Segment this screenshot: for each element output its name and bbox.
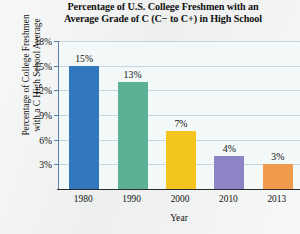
bar-slot: 3% [263,41,293,189]
x-tick-label: 2013 [267,194,286,204]
y-tick-mark [54,140,58,141]
x-tick-label: 1980 [74,194,93,204]
bar[interactable] [118,82,148,189]
y-tick-label: 18% [34,36,52,47]
bar[interactable] [166,131,196,189]
y-axis-title-line-1: Percentage of College Freshmen [21,0,32,155]
bar-slot: 7% [166,41,196,189]
bar-slot: 15% [69,41,99,189]
chart-title-line-1: Percentage of U.S. College Freshmen with… [30,1,296,13]
y-tick-label: 6% [39,134,52,145]
plot-wrapper: 15%13%7%4%3% 3%6%9%12%15%18% 19801990200… [58,41,300,189]
y-tick-mark [54,41,58,42]
bar-value-label: 7% [174,118,187,129]
y-axis-title-line-2: with a C High School Average [32,0,43,155]
x-tick-label: 2010 [219,194,238,204]
y-tick-label: 9% [39,110,52,121]
y-tick-mark [54,66,58,67]
bar-value-label: 13% [124,69,142,80]
x-axis-line [57,189,300,190]
chart-title-line-2: Average Grade of C (C− to C+) in High Sc… [30,13,296,25]
plot-area: 15%13%7%4%3% [58,41,300,189]
bar[interactable] [214,156,244,189]
y-axis-title: Percentage of College Freshmen with a C … [21,0,51,155]
bar-slot: 13% [118,41,148,189]
y-tick-mark [54,164,58,165]
y-tick-label: 15% [34,60,52,71]
bar[interactable] [69,66,99,189]
bar-slot: 4% [214,41,244,189]
bar-value-label: 3% [271,151,284,162]
bar-value-label: 15% [75,53,93,64]
bar-value-label: 4% [223,143,236,154]
bar[interactable] [263,164,293,189]
y-tick-label: 3% [39,159,52,170]
y-tick-mark [54,90,58,91]
chart-figure: Percentage of U.S. College Freshmen with… [0,0,300,234]
chart-title: Percentage of U.S. College Freshmen with… [30,1,296,26]
x-tick-label: 2000 [171,194,190,204]
x-axis-title: Year [58,212,300,223]
y-tick-label: 12% [34,85,52,96]
x-tick-label: 1990 [122,194,141,204]
y-tick-mark [54,115,58,116]
